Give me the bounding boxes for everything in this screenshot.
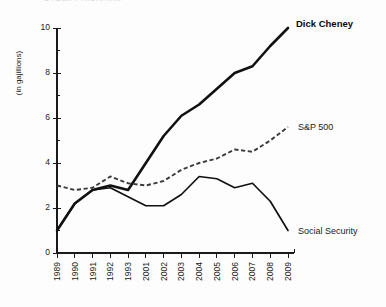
y-axis-tick-label: 0	[45, 247, 50, 257]
cut-off-header-text: A FAMILY TRADITION	[44, 0, 121, 1]
y-axis-title-text: (in gajillions)	[14, 50, 23, 95]
x-axis-tick-label: 1992	[105, 262, 115, 281]
x-axis-tick-label: 2007	[247, 262, 257, 281]
series-line-social-security	[57, 177, 288, 231]
x-axis-tick-label: 2005	[212, 262, 222, 281]
series-label-dick-cheney: Dick Cheney	[296, 18, 354, 29]
y-axis-tick-label: 2	[45, 202, 50, 212]
line-chart-canvas: 0246810 19891990199119921993200120022003…	[0, 0, 386, 307]
x-axis-tick-label: 1990	[70, 262, 80, 281]
x-axis-tick-label: 2003	[176, 262, 186, 281]
x-axis: 1989199019911992199320012002200320042005…	[52, 249, 294, 281]
y-axis-tick-label: 10	[41, 22, 51, 32]
series-labels: Dick CheneyS&P 500Social Security	[296, 18, 358, 236]
series-label-s-p-500: S&P 500	[298, 122, 333, 132]
y-axis: 0246810	[41, 22, 61, 257]
y-axis-title: (in gajillions)	[14, 50, 23, 95]
x-axis-tick-label: 2001	[141, 262, 151, 281]
x-axis-tick-label: 2009	[283, 262, 293, 281]
x-axis-tick-label: 2002	[159, 262, 169, 281]
y-axis-tick-label: 4	[45, 157, 50, 167]
chart-figure: A FAMILY TRADITION 0246810 1989199019911…	[0, 0, 386, 307]
x-axis-tick-label: 2006	[230, 262, 240, 281]
y-axis-tick-label: 6	[45, 112, 50, 122]
x-axis-tick-label: 1989	[52, 262, 62, 281]
x-axis-tick-label: 1993	[123, 262, 133, 281]
x-axis-tick-label: 1991	[88, 262, 98, 281]
x-axis-tick-label: 2004	[194, 262, 204, 281]
x-axis-tick-label: 2008	[265, 262, 275, 281]
series-lines	[57, 28, 288, 231]
series-line-s-p-500	[57, 127, 288, 190]
series-label-social-security: Social Security	[298, 226, 358, 236]
y-axis-tick-label: 8	[45, 67, 50, 77]
